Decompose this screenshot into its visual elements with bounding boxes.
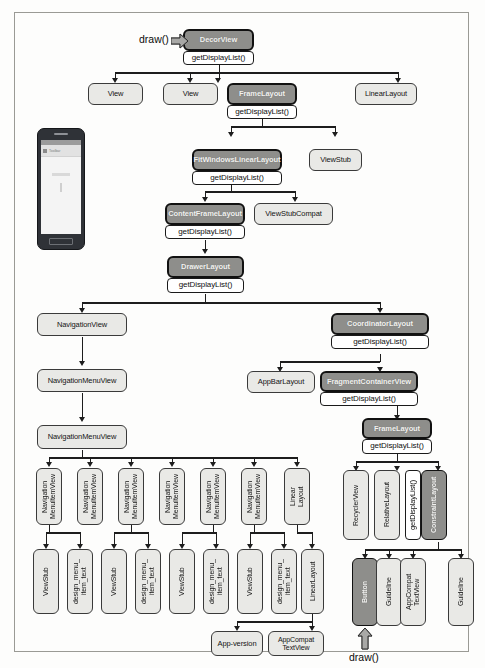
node-label: ContentFrameLayout — [168, 210, 242, 218]
node-label: design_menu_ item_text — [208, 559, 223, 604]
node-label: App-version — [218, 640, 257, 648]
node-coordinatorlayout[interactable]: CoordinatorLayout — [331, 313, 429, 335]
node-label: AppCompat TextView — [278, 636, 314, 651]
node-label: DecorView — [200, 36, 237, 44]
node-framelayout-top-getdisplaylist[interactable]: getDisplayList() — [227, 105, 297, 119]
node-label: FrameLayout — [239, 90, 285, 98]
node-decorview[interactable]: DecorView — [183, 29, 254, 51]
draw-label-bottom: draw() — [349, 651, 379, 663]
node-label: ViewStub — [320, 156, 351, 164]
node-drawerlayout[interactable]: DrawerLayout — [167, 256, 244, 278]
node-relativelayout[interactable]: RelativeLayout — [374, 470, 400, 540]
node-label: Button — [361, 581, 369, 603]
node-label: ViewStubCompat — [265, 210, 321, 218]
node-label: Navigation MenuItemView — [246, 474, 261, 519]
node-label: CoordinatorLayout — [347, 320, 413, 328]
phone-appbar: Toolbar — [41, 145, 81, 157]
node-label: getDisplayList() — [370, 442, 424, 450]
node-drawerlayout-getdisplaylist[interactable]: getDisplayList() — [167, 278, 244, 293]
phone-speaker — [54, 133, 68, 135]
node-label: LinearLayout — [365, 90, 407, 98]
node-navigationmenuview-2[interactable]: NavigationMenuView — [37, 425, 127, 449]
node-navigationmenuitemview-3[interactable]: Navigation MenuItemView — [118, 468, 144, 525]
node-label: getDisplayList() — [235, 108, 289, 116]
node-label: Navigation MenuItemView — [164, 474, 179, 519]
node-label: Navigation MenuItemView — [205, 474, 220, 519]
node-label: Navigation MenuItemView — [41, 474, 56, 519]
phone-mockup: Toolbar — [37, 128, 85, 250]
node-label: NavigationMenuView — [48, 433, 117, 441]
node-appcompattextview-bottom[interactable]: AppCompat TextView — [268, 631, 324, 656]
draw-arrow-bottom-icon — [356, 628, 374, 650]
node-design-menu-item-text-2[interactable]: design_menu_ item_text — [135, 549, 161, 614]
node-label: RelativeLayout — [383, 483, 391, 528]
node-recyclerview[interactable]: RecyclerView — [343, 470, 369, 540]
node-fragmentcontainerview-getdisplaylist[interactable]: getDisplayList() — [320, 392, 418, 406]
node-contentframelayout-getdisplaylist[interactable]: getDisplayList() — [165, 225, 245, 239]
node-linearlayout-bottom[interactable]: LinearLayout — [301, 549, 324, 614]
node-navigationmenuitemview-4[interactable]: Navigation MenuItemView — [159, 468, 185, 525]
node-navigationmenuview-1[interactable]: NavigationMenuView — [37, 369, 127, 392]
node-label: FrameLayout — [374, 425, 420, 433]
node-label: AppCompat TextView — [405, 574, 420, 610]
node-decorview-getdisplaylist[interactable]: getDisplayList() — [183, 51, 254, 65]
node-fitwindowslinearlayout[interactable]: FitWindowsLinearLayout — [192, 149, 282, 171]
node-linearlayout-menu[interactable]: Linear Layout — [284, 468, 310, 525]
node-framelayout-top[interactable]: FrameLayout — [227, 83, 297, 105]
node-label: getDisplayList() — [342, 395, 396, 403]
node-label: design_menu_ item_text — [72, 559, 87, 604]
node-contentframelayout[interactable]: ContentFrameLayout — [165, 203, 245, 225]
phone-home-button — [49, 238, 73, 245]
node-label: design_menu_ item_text — [140, 559, 155, 604]
node-label: design_menu_ item_text — [276, 559, 291, 604]
node-app-version[interactable]: App-version — [211, 631, 263, 656]
node-appbarlayout[interactable]: AppBarLayout — [247, 371, 315, 393]
diagram-page: DecorView getDisplayList() draw() View V… — [0, 0, 485, 668]
node-label: ViewStub — [178, 567, 186, 596]
node-coordinatorlayout-getdisplaylist[interactable]: getDisplayList() — [331, 335, 429, 349]
node-viewstub-4[interactable]: ViewStub — [237, 549, 263, 614]
node-view-1[interactable]: View — [88, 83, 143, 105]
node-label: AppBarLayout — [258, 378, 304, 386]
node-guideline-1[interactable]: Guideline — [376, 558, 402, 626]
node-label: Navigation MenuItemView — [123, 474, 138, 519]
node-constraintlayout[interactable]: ConstraintLayout — [421, 470, 447, 540]
node-viewstub-top[interactable]: ViewStub — [309, 149, 362, 171]
node-label: getDisplayList() — [179, 281, 233, 289]
node-fitwindowslinearlayout-getdisplaylist[interactable]: getDisplayList() — [192, 171, 282, 185]
node-design-menu-item-text-4[interactable]: design_menu_ item_text — [271, 549, 297, 614]
node-label: Guideline — [457, 578, 465, 607]
node-label: Linear Layout — [289, 486, 304, 506]
node-view-2[interactable]: View — [163, 83, 218, 105]
node-label: ViewStub — [42, 567, 50, 596]
node-button[interactable]: Button — [352, 558, 378, 626]
node-linearlayout-top[interactable]: LinearLayout — [355, 83, 417, 105]
node-guideline-2[interactable]: Guideline — [448, 558, 474, 626]
node-navigationmenuitemview-2[interactable]: Navigation MenuItemView — [77, 468, 103, 525]
node-label: ViewStub — [110, 567, 118, 596]
node-navigationmenuitemview-5[interactable]: Navigation MenuItemView — [200, 468, 226, 525]
node-label: Navigation MenuItemView — [82, 474, 97, 519]
node-design-menu-item-text-1[interactable]: design_menu_ item_text — [67, 549, 93, 614]
node-framelayout-right[interactable]: FrameLayout — [362, 418, 432, 439]
node-navigationview[interactable]: NavigationView — [37, 313, 127, 336]
node-viewstubcompat[interactable]: ViewStubCompat — [254, 203, 333, 225]
node-label: ViewStub — [246, 567, 254, 596]
node-navigationmenuitemview-1[interactable]: Navigation MenuItemView — [36, 468, 62, 525]
node-viewstub-2[interactable]: ViewStub — [101, 549, 127, 614]
node-label: View — [183, 90, 199, 98]
node-fragmentcontainerview[interactable]: FragmentContainerView — [320, 371, 418, 392]
node-label: LinearLayout — [309, 562, 317, 601]
node-label: NavigationMenuView — [48, 377, 117, 385]
node-viewstub-1[interactable]: ViewStub — [33, 549, 59, 614]
node-appcompattextview-right[interactable]: AppCompat TextView — [400, 558, 426, 626]
node-constraintlayout-getdisplaylist[interactable]: getDisplayList() — [405, 470, 421, 540]
node-framelayout-right-getdisplaylist[interactable]: getDisplayList() — [362, 439, 432, 454]
node-label: NavigationView — [57, 321, 107, 329]
node-label: Guideline — [385, 578, 393, 607]
node-label: getDisplayList() — [353, 338, 407, 346]
node-label: getDisplayList() — [192, 54, 246, 62]
node-navigationmenuitemview-6[interactable]: Navigation MenuItemView — [241, 468, 267, 525]
node-design-menu-item-text-3[interactable]: design_menu_ item_text — [203, 549, 229, 614]
node-viewstub-3[interactable]: ViewStub — [169, 549, 195, 614]
